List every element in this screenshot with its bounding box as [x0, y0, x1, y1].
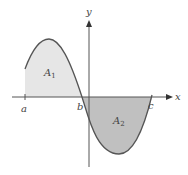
area-diagram: y x a b c A1 A2	[0, 0, 188, 175]
region-a1-fill	[25, 39, 82, 97]
region-a1-letter: A	[43, 67, 51, 78]
region-a2-subscript: 2	[120, 120, 124, 128]
region-a1-subscript: 1	[51, 72, 55, 80]
y-axis-label: y	[85, 6, 92, 17]
region-a2-letter: A	[112, 115, 120, 126]
point-label-a: a	[21, 103, 27, 114]
y-axis-arrow-icon	[86, 20, 92, 27]
point-label-c: c	[148, 100, 154, 111]
x-axis-label: x	[175, 91, 181, 102]
point-label-b: b	[77, 101, 83, 112]
x-axis-arrow-icon	[166, 94, 173, 100]
